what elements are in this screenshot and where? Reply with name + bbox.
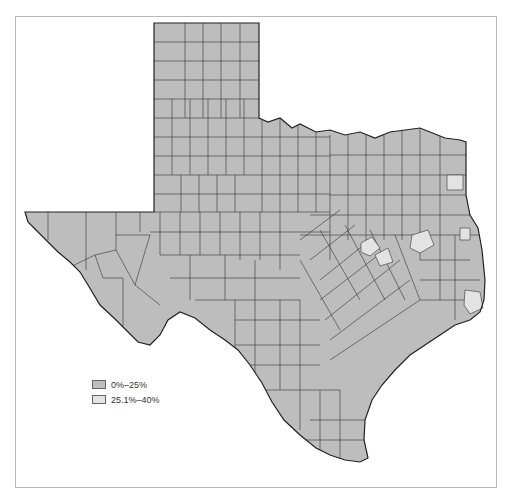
legend-label-low: 0%–25% [111, 380, 147, 390]
highlight-county-sabine-area [460, 228, 470, 240]
legend-item-high: 25.1%–40% [92, 392, 160, 407]
highlight-county-harrison-area [447, 175, 463, 190]
legend-item-low: 0%–25% [92, 377, 160, 392]
legend-label-high: 25.1%–40% [111, 395, 160, 405]
legend-swatch-low [92, 380, 106, 389]
texas-county-map [0, 0, 513, 498]
map-legend: 0%–25% 25.1%–40% [92, 377, 160, 407]
legend-swatch-high [92, 395, 106, 404]
